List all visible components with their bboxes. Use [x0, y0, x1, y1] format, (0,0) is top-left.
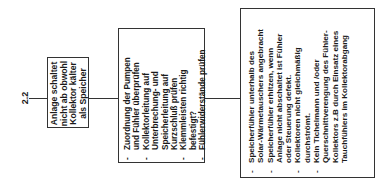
- problem-box: Anlage schaltet nicht ab obwohl Kollekto…: [47, 57, 89, 128]
- cause-item: - Kein Tichelmann und /oder Querschnittv…: [312, 13, 349, 173]
- bullet-dash: -: [198, 157, 207, 160]
- bullet-dash: -: [247, 170, 256, 173]
- check-line: Klemmleisten richtig: [179, 32, 188, 150]
- cause-item: - Speicherfühler unterhalb des Solar-Wär…: [247, 13, 266, 173]
- bullet-dash: -: [142, 157, 151, 160]
- bullet-dash: -: [266, 170, 275, 173]
- problem-text: Anlage schaltet nicht ab obwohl Kollekto…: [50, 60, 88, 127]
- cause-line: Speicherfühler erhitzen, wenn: [266, 13, 275, 163]
- checks-list-wrap: - Zuordnung der Pumpen und Fühler überpr…: [123, 32, 208, 160]
- check-line: Fühlerwiderstände prüfen: [198, 32, 207, 150]
- check-item: - Klemmleisten richtig befestigt?: [179, 32, 198, 160]
- cause-line: durchströmt.: [303, 13, 312, 163]
- check-line: und Fühler überprüfen: [132, 32, 141, 150]
- cause-line: Kollektoren nicht gleichmäßig: [293, 13, 302, 163]
- bullet-dash: -: [123, 157, 132, 160]
- check-item: - Kollektorleitung auf Unterbrechung- un…: [142, 32, 180, 160]
- check-item: - Zuordnung der Pumpen und Fühler überpr…: [123, 32, 142, 160]
- check-line: Zuordnung der Pumpen: [123, 32, 132, 150]
- cause-line: Kollektors z.B durch Einsatz eines: [331, 13, 340, 163]
- connector-label-to-problem: [29, 98, 47, 99]
- check-line: Unterbrechung- und: [151, 32, 160, 150]
- causes-box: - Speicherfühler unterhalb des Solar-Wär…: [240, 8, 375, 178]
- bullet-dash: -: [179, 157, 188, 160]
- check-line: befestigt?: [189, 32, 198, 150]
- cause-line: Speicherfühler unterhalb des: [247, 13, 256, 163]
- causes-list-wrap: - Speicherfühler unterhalb des Solar-Wär…: [247, 13, 349, 173]
- check-line: Speicherleitung auf: [161, 32, 170, 150]
- cause-line: oder Steuerung defekt.: [284, 13, 293, 163]
- cause-line: Tauchfühlers im Kollektorabgang: [340, 13, 349, 163]
- step-number: 2.2: [20, 87, 30, 109]
- connector-checks-to-causes: [205, 98, 240, 99]
- cause-item: - Speicherfühler erhitzen, wenn Anlage n…: [266, 13, 294, 173]
- check-line: Kollektorleitung auf: [142, 32, 151, 150]
- connector-problem-to-checks: [89, 98, 118, 99]
- check-item: - Fühlerwiderstände prüfen: [198, 32, 207, 160]
- checks-list: - Zuordnung der Pumpen und Fühler überpr…: [123, 32, 208, 160]
- check-line: Kurzschluß prüfen: [170, 32, 179, 150]
- causes-list: - Speicherfühler unterhalb des Solar-Wär…: [247, 13, 349, 173]
- cause-item: - Kollektoren nicht gleichmäßig durchstr…: [293, 13, 312, 173]
- checks-box: - Zuordnung der Pumpen und Fühler überpr…: [118, 28, 205, 163]
- cause-line: Anlage nicht abschaltet ist Fühler: [275, 13, 284, 163]
- problem-line: als Speicher: [79, 60, 89, 127]
- bullet-dash: -: [293, 170, 302, 173]
- cause-line: Solar-Wärmetauschers angebracht: [256, 13, 265, 163]
- cause-line: Querschnittverengung des Fühler-: [321, 13, 330, 163]
- cause-line: Kein Tichelmann und /oder: [312, 13, 321, 163]
- bullet-dash: -: [312, 170, 321, 173]
